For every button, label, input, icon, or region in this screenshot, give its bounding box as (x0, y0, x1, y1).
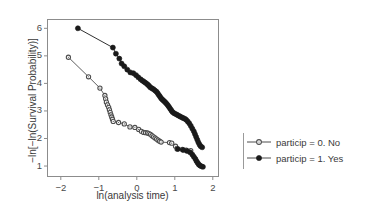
legend-label: particip = 0. No (272, 137, 340, 148)
open-circle-icon (246, 135, 272, 149)
chart-legend: particip = 0. Noparticip = 1. Yes (246, 134, 378, 168)
y-tick-label: 4 (24, 77, 42, 88)
x-tick-label: −2 (49, 182, 73, 193)
chart-figure: −ln[−ln(Survival Probability)] ln(analys… (0, 0, 382, 216)
y-tick-label: 1 (24, 160, 42, 171)
y-tick-label: 2 (24, 132, 42, 143)
x-tick-label: −1 (87, 182, 111, 193)
legend-item[interactable]: particip = 0. No (246, 134, 378, 150)
legend-item[interactable]: particip = 1. Yes (246, 150, 378, 166)
y-tick-label: 6 (24, 22, 42, 33)
filled-circle-icon (246, 151, 272, 165)
y-axis-label: −ln[−ln(Survival Probability)] (27, 21, 38, 181)
series-2 (175, 146, 205, 169)
y-tick-label: 3 (24, 104, 42, 115)
x-tick-label: 0 (125, 182, 149, 193)
x-tick-label: 1 (163, 182, 187, 193)
x-tick-label: 2 (201, 182, 225, 193)
y-tick-label: 5 (24, 49, 42, 60)
legend-label: particip = 1. Yes (272, 153, 343, 164)
legend-divider (243, 133, 244, 169)
